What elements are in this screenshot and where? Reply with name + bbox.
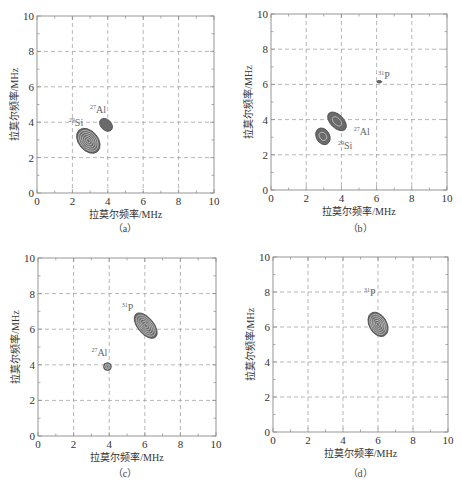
y-tick-label: 4 xyxy=(265,356,271,368)
x-tick-label: 2 xyxy=(71,438,77,450)
y-tick-label: 0 xyxy=(265,426,271,438)
y-tick-label: 6 xyxy=(263,78,269,90)
y-tick-label: 8 xyxy=(265,286,271,298)
x-tick-label: 8 xyxy=(176,195,182,207)
peak-29Si xyxy=(313,125,333,147)
x-tick-label: 10 xyxy=(211,438,223,450)
chart-panel-c: 02468100246810拉莫尔频率/MHz拉莫尔频率/MHz31P27Al xyxy=(0,242,231,484)
peak-27Al xyxy=(324,109,350,135)
peak-27Al xyxy=(97,116,115,134)
caption-a: （a） xyxy=(95,220,155,235)
axis-ticks xyxy=(273,257,448,432)
grid-lines xyxy=(37,16,214,193)
y-tick-label: 4 xyxy=(29,116,35,128)
y-tick-label: 2 xyxy=(30,394,36,406)
peak-29Si xyxy=(72,124,105,158)
y-tick-label: 10 xyxy=(259,251,271,263)
axis-ticks xyxy=(271,14,447,190)
grid-lines xyxy=(271,14,447,190)
x-axis-label: 拉莫尔频率/MHz xyxy=(89,208,163,220)
axis-ticks xyxy=(37,16,214,193)
peak-label-31P: 31P xyxy=(364,287,376,298)
x-tick-label: 10 xyxy=(209,195,221,207)
chart-panel-a: 02468100246810拉莫尔频率/MHz拉莫尔频率/MHz29Si27Al xyxy=(0,0,231,242)
peak-label-27Al: 27Al xyxy=(91,347,107,358)
x-tick-label: 4 xyxy=(339,192,345,204)
y-tick-label: 0 xyxy=(29,187,35,199)
x-tick-label: 0 xyxy=(34,195,40,207)
x-tick-label: 2 xyxy=(303,192,309,204)
peak-label-29Si: 29Si xyxy=(69,117,84,128)
x-tick-label: 8 xyxy=(409,192,415,204)
y-tick-label: 0 xyxy=(263,184,269,196)
x-tick-label: 2 xyxy=(70,195,76,207)
x-tick-label: 8 xyxy=(178,438,184,450)
y-axis-label: 拉莫尔频率/MHz xyxy=(9,310,21,384)
peak-31P xyxy=(377,81,382,83)
y-tick-label: 10 xyxy=(24,252,36,264)
x-tick-label: 4 xyxy=(106,438,112,450)
y-axis-label: 拉莫尔频率/MHz xyxy=(242,65,254,139)
peak-label-29Si: 29Si xyxy=(338,140,353,151)
contour-plot-a: 02468100246810拉莫尔频率/MHz拉莫尔频率/MHz29Si27Al xyxy=(0,0,231,242)
plot-frame xyxy=(37,16,214,193)
x-axis-label: 拉莫尔频率/MHz xyxy=(90,451,164,463)
caption-b: （b） xyxy=(330,220,390,235)
grid-lines xyxy=(38,258,216,436)
y-tick-label: 6 xyxy=(30,323,36,335)
plot-frame xyxy=(38,258,216,436)
x-tick-label: 6 xyxy=(142,438,148,450)
y-tick-label: 6 xyxy=(265,321,271,333)
x-tick-label: 4 xyxy=(105,195,111,207)
chart-panel-b: 02468100246810拉莫尔频率/MHz拉莫尔频率/MHz29Si27Al… xyxy=(231,0,462,242)
x-tick-label: 6 xyxy=(140,195,146,207)
grid-lines xyxy=(273,257,448,432)
y-tick-label: 2 xyxy=(265,391,271,403)
y-tick-label: 10 xyxy=(23,10,35,22)
plot-frame xyxy=(271,14,447,190)
y-axis-label: 拉莫尔频率/MHz xyxy=(244,307,256,381)
x-tick-label: 6 xyxy=(375,434,381,446)
y-tick-label: 2 xyxy=(29,152,35,164)
x-tick-label: 2 xyxy=(305,434,311,446)
chart-panel-d: 02468100246810拉莫尔频率/MHz拉莫尔频率/MHz31P xyxy=(231,242,462,484)
x-tick-label: 10 xyxy=(443,434,455,446)
x-tick-label: 0 xyxy=(35,438,41,450)
x-tick-label: 0 xyxy=(270,434,276,446)
peak-label-31P: 31P xyxy=(378,70,390,81)
peak-label-27Al: 27Al xyxy=(90,104,106,115)
caption-c: （c） xyxy=(95,465,155,480)
x-axis-label: 拉莫尔频率/MHz xyxy=(324,447,398,459)
x-tick-label: 0 xyxy=(268,192,274,204)
y-tick-label: 8 xyxy=(30,288,36,300)
x-tick-label: 8 xyxy=(410,434,416,446)
contour-plot-d: 02468100246810拉莫尔频率/MHz拉莫尔频率/MHz31P xyxy=(231,242,462,484)
y-tick-label: 2 xyxy=(263,149,269,161)
contour-plot-c: 02468100246810拉莫尔频率/MHz拉莫尔频率/MHz31P27Al xyxy=(0,242,231,484)
y-tick-label: 4 xyxy=(30,359,36,371)
peak-31P xyxy=(130,309,162,342)
y-tick-label: 6 xyxy=(29,81,35,93)
peak-27Al xyxy=(104,363,112,371)
y-tick-label: 0 xyxy=(30,430,36,442)
y-tick-label: 4 xyxy=(263,114,269,126)
y-tick-label: 10 xyxy=(257,8,269,20)
axis-ticks xyxy=(38,258,216,436)
y-tick-label: 8 xyxy=(263,43,269,55)
x-tick-label: 4 xyxy=(340,434,346,446)
y-axis-label: 拉莫尔频率/MHz xyxy=(8,67,20,141)
y-tick-label: 8 xyxy=(29,45,35,57)
x-axis-label: 拉莫尔频率/MHz xyxy=(322,205,396,217)
caption-d: （d） xyxy=(330,465,390,480)
peak-label-27Al: 27Al xyxy=(354,126,370,137)
peak-label-31P: 31P xyxy=(122,302,134,313)
x-tick-label: 6 xyxy=(374,192,380,204)
contour-plot-b: 02468100246810拉莫尔频率/MHz拉莫尔频率/MHz29Si27Al… xyxy=(231,0,462,242)
peak-31P xyxy=(364,309,392,340)
x-tick-label: 10 xyxy=(442,192,454,204)
plot-frame xyxy=(273,257,448,432)
